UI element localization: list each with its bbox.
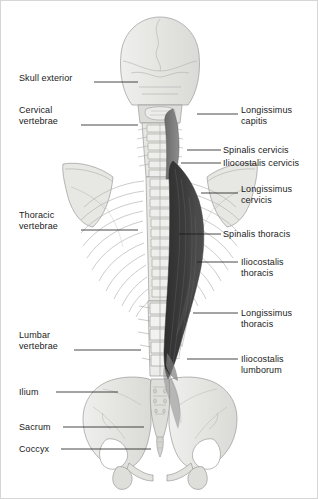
label-coccyx: Coccyx bbox=[19, 444, 49, 455]
label-thoracic-vertebrae: Thoracicvertebrae bbox=[19, 210, 58, 231]
label-longissimus-cervicis: Longissimuscervicis bbox=[241, 184, 292, 205]
label-line: vertebrae bbox=[19, 221, 58, 232]
label-line: Longissimus bbox=[241, 308, 292, 319]
label-line: Ilium bbox=[19, 387, 39, 398]
label-line: thoracis bbox=[241, 319, 292, 330]
label-skull-exterior: Skull exterior bbox=[19, 73, 72, 84]
skull-group bbox=[120, 17, 199, 123]
label-cervical-vertebrae: Cervicalvertebrae bbox=[19, 105, 58, 126]
label-lumbar-vertebrae: Lumbarvertebrae bbox=[19, 330, 58, 351]
label-line: Spinalis thoracis bbox=[223, 229, 290, 240]
label-line: thoracis bbox=[241, 268, 284, 279]
label-line: vertebrae bbox=[19, 341, 58, 352]
label-line: capitis bbox=[241, 116, 292, 127]
label-spinalis-cervicis: Spinalis cervicis bbox=[223, 145, 289, 156]
label-spinalis-thoracis: Spinalis thoracis bbox=[223, 229, 290, 240]
label-line: Iliocostalis cervicis bbox=[223, 158, 299, 169]
label-line: Cervical bbox=[19, 105, 58, 116]
label-line: Iliocostalis bbox=[241, 354, 284, 365]
label-line: Sacrum bbox=[19, 422, 51, 433]
pelvis-group bbox=[83, 377, 237, 489]
label-line: Iliocostalis bbox=[241, 257, 284, 268]
label-iliocostalis-cervicis: Iliocostalis cervicis bbox=[223, 158, 299, 169]
label-line: vertebrae bbox=[19, 116, 58, 127]
label-iliocostalis-lumborum: Iliocostalislumborum bbox=[241, 354, 284, 375]
scapula-left bbox=[63, 163, 113, 227]
label-line: Skull exterior bbox=[19, 73, 72, 84]
label-line: Thoracic bbox=[19, 210, 58, 221]
label-longissimus-thoracis: Longissimusthoracis bbox=[241, 308, 292, 329]
label-line: Longissimus bbox=[241, 184, 292, 195]
figure-frame: Skull exteriorCervicalvertebraeThoracicv… bbox=[0, 0, 318, 499]
label-longissimus-capitis: Longissimuscapitis bbox=[241, 105, 292, 126]
label-line: Spinalis cervicis bbox=[223, 145, 289, 156]
label-line: Lumbar bbox=[19, 330, 58, 341]
label-sacrum: Sacrum bbox=[19, 422, 51, 433]
label-line: Longissimus bbox=[241, 105, 292, 116]
label-line: Coccyx bbox=[19, 444, 49, 455]
label-iliocostalis-thoracis: Iliocostalisthoracis bbox=[241, 257, 284, 278]
label-line: lumborum bbox=[241, 365, 284, 376]
label-line: cervicis bbox=[241, 195, 292, 206]
label-ilium: Ilium bbox=[19, 387, 39, 398]
